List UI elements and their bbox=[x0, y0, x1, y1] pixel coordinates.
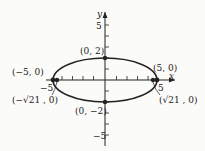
label-vertex-right: (5, 0) bbox=[153, 63, 177, 73]
point-top bbox=[103, 56, 107, 60]
vertex-left bbox=[51, 78, 56, 83]
label-focus-right: (√21 , 0) bbox=[159, 95, 198, 105]
y-axis-arrow-icon bbox=[103, 12, 108, 18]
vertex-right bbox=[155, 78, 160, 83]
label-top: (0, 2) bbox=[80, 46, 104, 56]
label-vertex-left: (−5, 0) bbox=[12, 67, 44, 77]
focus-right bbox=[151, 78, 155, 82]
x-tick-label-left: −5 bbox=[40, 83, 54, 93]
plot-canvas: y x 5 −5 −5 5 (0, 2) (−5, 0) (5, 0) (−√2… bbox=[0, 0, 205, 151]
y-tick-label-bottom: −5 bbox=[93, 131, 107, 141]
ellipse-diagram: y x 5 −5 −5 5 (0, 2) (−5, 0) (5, 0) (−√2… bbox=[0, 0, 205, 151]
label-focus-left: (−√21 , 0) bbox=[12, 95, 58, 105]
x-tick-label-right: 5 bbox=[158, 83, 164, 93]
label-bottom: (0, −2) bbox=[75, 106, 107, 116]
y-tick-label-top: 5 bbox=[96, 21, 102, 31]
y-axis-label: y bbox=[96, 9, 103, 19]
point-bottom bbox=[103, 100, 107, 104]
focus-left bbox=[55, 78, 59, 82]
